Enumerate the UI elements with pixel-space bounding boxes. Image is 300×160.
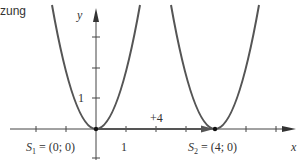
x-axis-label: x bbox=[291, 140, 296, 155]
x-tick-label-1: 1 bbox=[121, 140, 127, 155]
vertex-s1-label: S1 = (0; 0) bbox=[26, 140, 75, 156]
y-tick-label-1: 1 bbox=[78, 91, 84, 106]
vertex-s2-label: S2 = (4; 0) bbox=[188, 140, 237, 156]
parabola-s2 bbox=[171, 5, 259, 129]
y-axis-arrow-icon bbox=[93, 8, 99, 22]
y-axis-label: y bbox=[77, 8, 82, 23]
vertex-s2-point bbox=[213, 127, 217, 131]
shift-arrow bbox=[96, 126, 214, 133]
vertex-s1-point bbox=[94, 127, 98, 131]
x-axis-arrow-icon bbox=[282, 126, 296, 132]
parabola-shift-diagram bbox=[0, 0, 300, 160]
y-axis bbox=[92, 8, 100, 160]
shift-label: +4 bbox=[150, 111, 163, 126]
